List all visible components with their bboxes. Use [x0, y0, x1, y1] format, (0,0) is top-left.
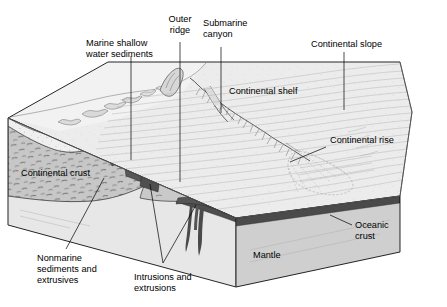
label-continental-shelf: Continental shelf	[229, 86, 298, 96]
label-continental-rise: Continental rise	[330, 135, 394, 145]
figure-root: Marine shallow water sediments Outer rid…	[0, 0, 447, 307]
label-outer-ridge-line2: ridge	[170, 25, 190, 35]
label-oceanic-crust-line1: Oceanic	[355, 220, 389, 230]
label-intrusions-line1: Intrusions and	[134, 272, 192, 282]
label-nonmarine-line2: sediments and	[37, 264, 97, 274]
label-submarine-canyon-line1: Submarine	[203, 18, 247, 28]
label-outer-ridge-line1: Outer	[169, 14, 192, 24]
label-submarine-canyon-line2: canyon	[203, 29, 233, 39]
continental-margin-block-diagram: Marine shallow water sediments Outer rid…	[0, 0, 447, 307]
label-marine-shallow-water-sediments-line1: Marine shallow	[86, 38, 148, 48]
label-mantle: Mantle	[253, 250, 281, 260]
label-continental-crust: Continental crust	[21, 168, 90, 178]
label-intrusions-line2: extrusions	[134, 283, 176, 293]
label-nonmarine-line3: extrusives	[37, 275, 79, 285]
label-nonmarine-line1: Nonmarine	[37, 253, 82, 263]
label-marine-shallow-water-sediments-line2: water sediments	[85, 49, 153, 59]
label-oceanic-crust-line2: crust	[355, 231, 375, 241]
label-continental-slope: Continental slope	[311, 39, 382, 49]
